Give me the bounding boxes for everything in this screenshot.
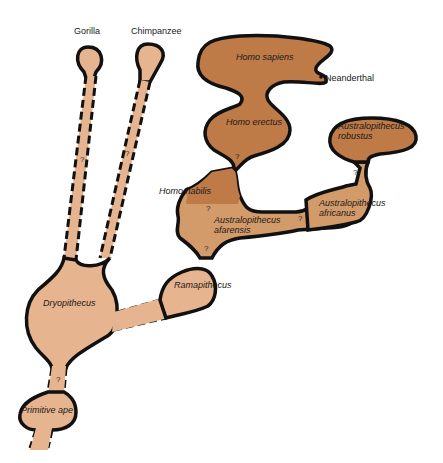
label-afarensis-line1: Australopithecus bbox=[214, 215, 281, 225]
uncertainty-mark: ? bbox=[353, 168, 357, 177]
label-neanderthal: Neanderthal bbox=[325, 73, 374, 83]
ape-stems bbox=[64, 76, 150, 260]
label-afarensis-line2: afarensis bbox=[214, 225, 251, 235]
uncertainty-mark: ? bbox=[298, 214, 302, 223]
label-africanus-line1: Australopithecus bbox=[319, 198, 386, 208]
ramapithecus-shape bbox=[160, 269, 215, 318]
uncertainty-mark: ? bbox=[235, 152, 239, 161]
uncertainty-mark: ? bbox=[80, 155, 84, 164]
label-robustus-line1: Australopithecus bbox=[338, 121, 405, 131]
label-primitive-ape: Primitive ape bbox=[21, 405, 73, 415]
label-robustus-line2: robustus bbox=[338, 131, 373, 141]
label-dryopithecus: Dryopithecus bbox=[43, 298, 96, 308]
label-africanus-line2: africanus bbox=[319, 208, 356, 218]
label-gorilla: Gorilla bbox=[74, 26, 100, 36]
label-homo-sapiens: Homo sapiens bbox=[236, 52, 294, 62]
africanus-shape bbox=[306, 162, 371, 230]
label-homo-habilis: Homo habilis bbox=[159, 186, 211, 196]
uncertainty-mark: ? bbox=[125, 149, 129, 158]
label-homo-erectus: Homo erectus bbox=[226, 117, 282, 127]
uncertainty-mark: ? bbox=[204, 244, 208, 253]
dryopithecus-shape bbox=[26, 258, 117, 368]
evolution-tree-diagram: Gorilla Chimpanzee Homo sapiens Neandert… bbox=[0, 0, 443, 463]
uncertainty-mark: ? bbox=[56, 375, 60, 384]
uncertainty-mark: ? bbox=[206, 204, 210, 213]
label-chimpanzee: Chimpanzee bbox=[131, 26, 182, 36]
label-ramapithecus: Ramapithecus bbox=[174, 280, 232, 290]
